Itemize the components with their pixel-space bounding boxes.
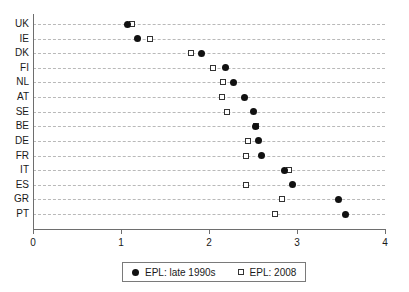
legend-label-late-1990s: EPL: late 1990s bbox=[145, 267, 216, 278]
category-label: FI bbox=[1, 63, 29, 73]
data-point-marker bbox=[335, 196, 342, 203]
y-axis-line bbox=[33, 14, 34, 230]
data-point-marker bbox=[220, 79, 226, 85]
epl-scatter-chart: UKIEDKFINLATSEBEDEFRITESGRPT 01234 EPL: … bbox=[0, 0, 409, 292]
gridline bbox=[33, 141, 385, 142]
gridline bbox=[33, 97, 385, 98]
data-point-marker bbox=[134, 35, 141, 42]
legend-label-2008: EPL: 2008 bbox=[250, 267, 297, 278]
category-label: IT bbox=[1, 165, 29, 175]
data-point-marker bbox=[224, 109, 230, 115]
x-axis-tick-mark bbox=[297, 229, 298, 234]
category-label: PT bbox=[1, 209, 29, 219]
gridline bbox=[33, 126, 385, 127]
gridline bbox=[33, 112, 385, 113]
open-square-icon bbox=[238, 269, 244, 275]
data-point-marker bbox=[272, 211, 278, 217]
x-axis-tick-label: 0 bbox=[18, 237, 48, 248]
data-point-marker bbox=[342, 211, 349, 218]
data-point-marker bbox=[222, 64, 229, 71]
x-axis-tick-mark bbox=[33, 229, 34, 234]
category-label: GR bbox=[1, 194, 29, 204]
x-axis-tick-label: 1 bbox=[106, 237, 136, 248]
data-point-marker bbox=[198, 50, 205, 57]
data-point-marker bbox=[219, 94, 225, 100]
data-point-marker bbox=[255, 137, 262, 144]
category-label: NL bbox=[1, 77, 29, 87]
category-axis-labels: UKIEDKFINLATSEBEDEFRITESGRPT bbox=[0, 14, 29, 230]
category-label: UK bbox=[1, 19, 29, 29]
data-point-marker bbox=[245, 138, 251, 144]
gridline bbox=[33, 199, 385, 200]
gridline bbox=[33, 214, 385, 215]
data-point-marker bbox=[258, 152, 265, 159]
gridline bbox=[33, 68, 385, 69]
x-axis-tick-label: 3 bbox=[282, 237, 312, 248]
category-label: AT bbox=[1, 92, 29, 102]
gridline bbox=[33, 185, 385, 186]
gridline bbox=[33, 53, 385, 54]
data-point-marker bbox=[188, 50, 194, 56]
data-point-marker bbox=[210, 65, 216, 71]
gridline bbox=[33, 156, 385, 157]
data-point-marker bbox=[281, 167, 288, 174]
category-label: BE bbox=[1, 121, 29, 131]
category-label: ES bbox=[1, 180, 29, 190]
filled-circle-icon bbox=[132, 269, 139, 276]
x-axis-tick-label: 4 bbox=[370, 237, 400, 248]
category-label: DE bbox=[1, 136, 29, 146]
x-axis-tick-label: 2 bbox=[194, 237, 224, 248]
gridline bbox=[33, 170, 385, 171]
data-point-marker bbox=[279, 196, 285, 202]
gridline bbox=[33, 82, 385, 83]
gridline bbox=[33, 39, 385, 40]
data-point-marker bbox=[243, 153, 249, 159]
data-point-marker bbox=[289, 181, 296, 188]
data-point-marker bbox=[250, 108, 257, 115]
data-point-marker bbox=[241, 94, 248, 101]
category-label: DK bbox=[1, 48, 29, 58]
category-label: SE bbox=[1, 107, 29, 117]
data-point-marker bbox=[124, 21, 131, 28]
category-label: FR bbox=[1, 151, 29, 161]
chart-legend: EPL: late 1990s EPL: 2008 bbox=[122, 262, 306, 282]
plot-area: 01234 bbox=[33, 14, 385, 230]
legend-entry-2008: EPL: 2008 bbox=[238, 267, 297, 278]
data-point-marker bbox=[243, 182, 249, 188]
legend-entry-late-1990s: EPL: late 1990s bbox=[132, 267, 216, 278]
data-point-marker bbox=[252, 123, 259, 130]
x-axis-tick-mark bbox=[121, 229, 122, 234]
data-point-marker bbox=[147, 36, 153, 42]
x-axis-tick-mark bbox=[209, 229, 210, 234]
gridline bbox=[33, 24, 385, 25]
x-axis-tick-mark bbox=[385, 229, 386, 234]
data-point-marker bbox=[230, 79, 237, 86]
category-label: IE bbox=[1, 34, 29, 44]
